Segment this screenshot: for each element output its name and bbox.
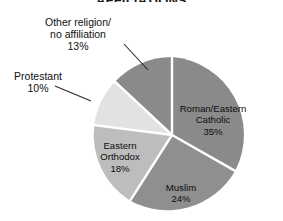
callout-label-protestant: Protestant 10%: [2, 70, 74, 94]
callout-label-other-religion: Other religion/ no affiliation 13%: [28, 16, 128, 53]
slice-muslim-value: 24%: [145, 193, 217, 204]
slice-orthodox-line1: Eastern: [84, 140, 156, 151]
slice-muslim-line1: Muslim: [145, 182, 217, 193]
slice-orthodox-value: 18%: [84, 163, 156, 174]
slice-label-roman-eastern-catholic: Roman/Eastern Catholic 35%: [161, 103, 265, 137]
slice-orthodox-line2: Orthodox: [84, 151, 156, 162]
slice-label-eastern-orthodox: Eastern Orthodox 18%: [84, 140, 156, 174]
pie-chart-figure: AFFILIATIONS Other religion/ no affiliat…: [0, 0, 283, 221]
callout-protestant-line1: Protestant: [2, 70, 74, 82]
callout-other-religion-line1: Other religion/: [28, 16, 128, 28]
callout-protestant-value: 10%: [2, 82, 74, 94]
slice-catholic-value: 35%: [161, 126, 265, 137]
callout-other-religion-value: 13%: [28, 40, 128, 52]
slice-catholic-line1: Roman/Eastern: [161, 103, 265, 114]
callout-other-religion-line2: no affiliation: [28, 28, 128, 40]
slice-label-muslim: Muslim 24%: [145, 182, 217, 205]
slice-catholic-line2: Catholic: [161, 114, 265, 125]
